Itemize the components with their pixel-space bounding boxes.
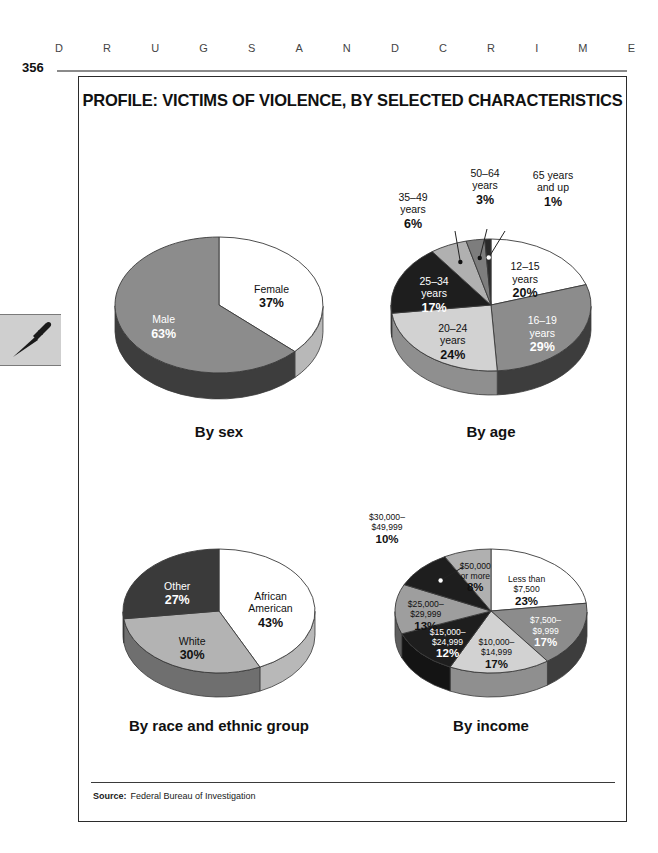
pie-slice-label: 35–49years bbox=[398, 191, 427, 215]
pie-slice-percent: 23% bbox=[515, 595, 538, 607]
pie-slice-label: $50,000or more bbox=[460, 561, 491, 581]
pie-slice-percent: 12% bbox=[436, 647, 459, 659]
callout-dot bbox=[458, 260, 462, 264]
callout-dot bbox=[438, 578, 442, 582]
running-head-letter: R bbox=[103, 42, 111, 54]
caption-by-age: By age bbox=[355, 423, 627, 440]
running-head-letter: U bbox=[151, 42, 159, 54]
figure-title: PROFILE: VICTIMS OF VIOLENCE, BY SELECTE… bbox=[79, 91, 626, 110]
pie-slice-label: Male bbox=[152, 313, 175, 325]
pie-slice-percent: 43% bbox=[258, 616, 283, 630]
running-head: DRUGSANDCRIME bbox=[55, 42, 635, 60]
pie-slice-percent: 10% bbox=[375, 533, 398, 545]
pie-slice-label: 65 yearsand up bbox=[533, 169, 573, 193]
pie-slice-percent: 6% bbox=[404, 217, 422, 231]
running-head-letter: G bbox=[199, 42, 208, 54]
running-head-letter: D bbox=[391, 42, 399, 54]
pie-slice-percent: 20% bbox=[513, 286, 538, 300]
pie-slice-label: 50–64years bbox=[470, 167, 499, 191]
chart-by-race: AfricanAmerican43%White30%Other27% By ra… bbox=[83, 515, 355, 815]
page-canvas: DRUGSANDCRIME 356 PROFILE: VICTIMS OF VI… bbox=[0, 0, 658, 853]
running-head-letter: R bbox=[487, 42, 495, 54]
by-income-pie: Less than$7,50023%$7,500–$9,99917%$10,00… bbox=[355, 515, 627, 737]
page-number: 356 bbox=[22, 60, 44, 75]
running-head-letter: I bbox=[535, 42, 538, 54]
callout-dot bbox=[487, 255, 491, 259]
caption-by-income: By income bbox=[355, 717, 627, 734]
pie-slice-percent: 1% bbox=[544, 195, 562, 209]
charts-grid: Female37%Male63% By sex 12–15years20%16–… bbox=[79, 125, 626, 765]
running-head-letter: M bbox=[578, 42, 587, 54]
running-head-letter: S bbox=[248, 42, 255, 54]
callout-dot bbox=[478, 256, 482, 260]
source-text: Federal Bureau of Investigation bbox=[131, 791, 256, 801]
pie-slice-label: White bbox=[179, 635, 206, 647]
pie-slice-label: $7,500–$9,999 bbox=[530, 615, 561, 635]
source-divider bbox=[91, 782, 615, 783]
pie-slice-percent: 17% bbox=[534, 636, 557, 648]
pie-slice-label: $10,000–$14,999 bbox=[478, 637, 514, 657]
pie-slice-percent: 63% bbox=[151, 327, 176, 341]
running-head-letter: C bbox=[439, 42, 447, 54]
pie-slice-percent: 27% bbox=[165, 593, 190, 607]
running-head-letter: N bbox=[343, 42, 351, 54]
pie-slice-label: AfricanAmerican bbox=[248, 590, 293, 614]
pie-slice-label: 12–15years bbox=[510, 260, 539, 284]
pie-slice-percent: 3% bbox=[476, 193, 494, 207]
by-race-pie: AfricanAmerican43%White30%Other27% bbox=[83, 515, 355, 737]
chart-by-age: 12–15years20%16–19years29%20–24years24%2… bbox=[355, 135, 627, 515]
caption-by-sex: By sex bbox=[83, 423, 355, 440]
source-line: Source:Federal Bureau of Investigation bbox=[93, 791, 256, 801]
pie-slice-label: $25,000–$29,999 bbox=[408, 599, 444, 619]
pie-slice-percent: 17% bbox=[422, 301, 447, 315]
pie-slice-label: $30,000–$49,999 bbox=[369, 512, 405, 532]
pie-slice-percent: 17% bbox=[485, 658, 508, 670]
pie-slice-label: 20–24years bbox=[438, 322, 467, 346]
running-head-letter: E bbox=[628, 42, 635, 54]
folio-rule bbox=[57, 70, 627, 72]
pie-slice-percent: 8% bbox=[467, 581, 484, 593]
chart-by-income: Less than$7,50023%$7,500–$9,99917%$10,00… bbox=[355, 515, 627, 815]
pie-slice-label: Female bbox=[254, 283, 289, 295]
chart-by-sex: Female37%Male63% By sex bbox=[83, 185, 355, 515]
pie-slice-percent: 37% bbox=[259, 296, 284, 310]
margin-tab-dagger bbox=[0, 314, 61, 366]
pie-slice-percent: 29% bbox=[530, 340, 555, 354]
figure-frame: PROFILE: VICTIMS OF VIOLENCE, BY SELECTE… bbox=[78, 76, 627, 822]
pie-slice-label: 16–19years bbox=[528, 314, 557, 338]
pie-slice-label: 25–34years bbox=[419, 275, 448, 299]
by-sex-pie: Female37%Male63% bbox=[83, 185, 355, 439]
source-label: Source: bbox=[93, 791, 127, 801]
pie-slice-percent: 24% bbox=[440, 348, 465, 362]
caption-by-race: By race and ethnic group bbox=[83, 717, 355, 734]
running-head-letter: D bbox=[55, 42, 63, 54]
by-age-pie: 12–15years20%16–19years29%20–24years24%2… bbox=[355, 135, 627, 435]
pie-slice-percent: 30% bbox=[180, 648, 205, 662]
pie-slice-percent: 13% bbox=[414, 620, 437, 632]
pie-slice-label: Other bbox=[164, 580, 191, 592]
running-head-letter: A bbox=[295, 42, 302, 54]
